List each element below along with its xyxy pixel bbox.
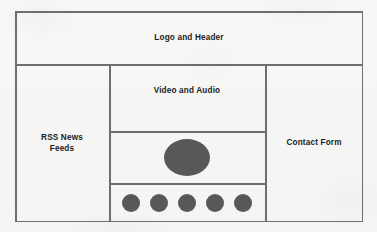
region-media-thumbnails[interactable] bbox=[109, 183, 265, 222]
media-region-label: Video and Audio bbox=[154, 85, 221, 96]
media-player-divider bbox=[109, 131, 267, 133]
region-contact-form[interactable]: Contact Form bbox=[265, 64, 363, 222]
rss-region-label: RSS News Feeds bbox=[41, 132, 83, 155]
outer-border-top bbox=[15, 11, 363, 13]
header-region-label: Logo and Header bbox=[154, 32, 223, 43]
thumbnail-circle-shape[interactable] bbox=[150, 194, 168, 212]
right-column-divider bbox=[265, 64, 267, 222]
region-logo-and-header[interactable]: Logo and Header bbox=[15, 11, 363, 64]
outer-border-left bbox=[15, 11, 17, 222]
thumbnail-circle-shape[interactable] bbox=[122, 194, 140, 212]
region-media-player[interactable] bbox=[109, 131, 265, 183]
thumbnail-row bbox=[109, 194, 265, 212]
header-divider bbox=[15, 64, 363, 66]
outer-border-right bbox=[362, 11, 364, 222]
region-video-and-audio[interactable]: Video and Audio bbox=[109, 64, 265, 131]
contact-region-label: Contact Form bbox=[286, 137, 341, 148]
thumbnail-circle-shape[interactable] bbox=[234, 194, 252, 212]
video-player-ellipse-shape bbox=[164, 139, 210, 176]
outer-border-bottom bbox=[15, 221, 363, 223]
region-rss-news-feeds[interactable]: RSS News Feeds bbox=[15, 64, 109, 222]
left-column-divider bbox=[109, 64, 111, 222]
wireframe-diagram: Logo and Header RSS News Feeds Video and… bbox=[15, 11, 363, 222]
thumbnail-circle-shape[interactable] bbox=[178, 194, 196, 212]
thumbnail-circle-shape[interactable] bbox=[206, 194, 224, 212]
media-thumbnail-divider bbox=[109, 183, 267, 185]
